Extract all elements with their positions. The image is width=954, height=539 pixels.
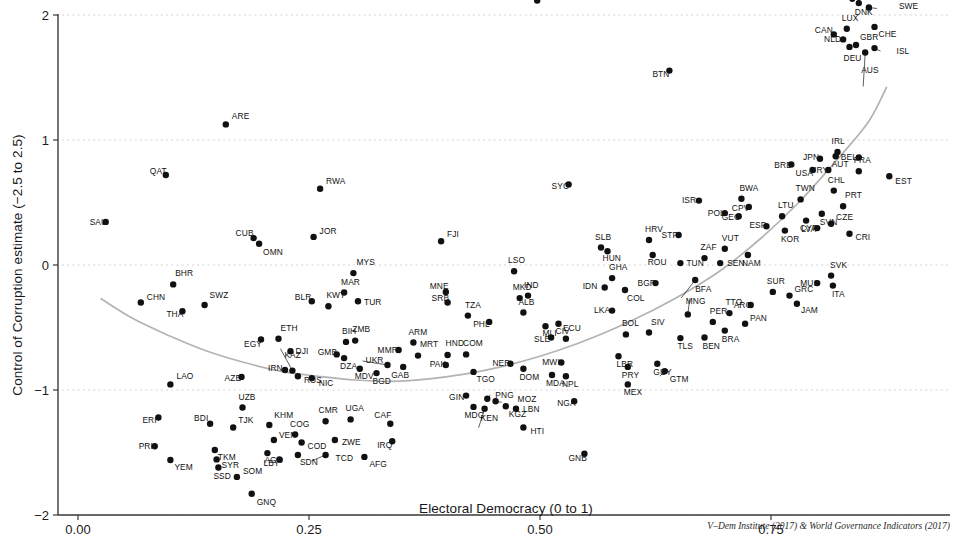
point-labels-group: SAUQATARECHNBHRTHASWZLAOERIPRKYEMBDITKMS… [90,0,919,507]
data-point-VEN[interactable] [271,437,277,443]
data-point-SOM[interactable] [234,474,240,480]
point-label-USA: USA [796,168,814,178]
data-point-IDN[interactable] [602,284,608,290]
data-point-ARM[interactable] [410,339,416,345]
data-point-SLB[interactable] [598,244,604,250]
data-point-VUT[interactable] [722,246,728,252]
data-point-CRI[interactable] [846,231,852,237]
data-point-ISR[interactable] [696,197,702,203]
data-point-CHE[interactable] [871,24,877,30]
data-point-FJI[interactable] [438,238,444,244]
data-point-LSO[interactable] [511,268,517,274]
data-point-KHM[interactable] [266,422,272,428]
data-point-CMR[interactable] [322,418,328,424]
data-point-IRN[interactable] [282,367,288,373]
data-point-MNG[interactable] [685,311,691,317]
data-point-MRT[interactable] [415,352,421,358]
data-point-CHL[interactable] [831,187,837,193]
trend-curve-group [101,88,886,382]
data-point-BHR[interactable] [170,281,176,287]
data-point-TZA[interactable] [465,312,471,318]
data-point-CHN[interactable] [138,299,144,305]
data-point-ZWE[interactable] [332,437,338,443]
data-point-RUS[interactable] [295,373,301,379]
data-point-RWA[interactable] [317,186,323,192]
data-point-AUS[interactable] [862,49,868,55]
point-label-KEN: KEN [481,413,499,423]
data-point-ISL[interactable] [871,45,877,51]
data-point-SUR[interactable] [770,289,776,295]
data-point-SIV[interactable] [646,329,652,335]
point-label-AZE: AZE [225,373,242,383]
point-label-BOL: BOL [622,318,639,328]
data-point-FIN[interactable] [849,0,855,2]
data-point-DNK[interactable] [856,0,862,6]
data-point-TUN[interactable] [677,260,683,266]
point-label-BTN: BTN [652,69,669,79]
data-point-TUR[interactable] [355,298,361,304]
data-point-PNG[interactable] [484,396,490,402]
data-point-OMN[interactable] [256,241,262,247]
data-point-HTI[interactable] [520,424,526,430]
point-label-CUB: CUB [236,228,254,238]
data-point-TJK[interactable] [230,424,236,430]
data-point-ZMB[interactable] [352,337,358,343]
data-point-MYS[interactable] [350,270,356,276]
point-label-PNG: PNG [495,390,513,400]
point-label-BEN: BEN [703,341,721,351]
data-point-FRA[interactable] [856,168,862,174]
data-point-UZB[interactable] [239,404,245,410]
point-label-PRT: PRT [845,190,862,200]
data-point-YEM[interactable] [167,457,173,463]
data-point-LUX[interactable] [844,26,850,32]
point-label-MYS: MYS [356,257,375,267]
data-point-COD[interactable] [298,439,304,445]
point-label-UZB: UZB [239,392,256,402]
data-point-BFA[interactable] [692,277,698,283]
data-point-BOL[interactable] [623,331,629,337]
data-point-TWN[interactable] [797,196,803,202]
data-point-JOR[interactable] [310,234,316,240]
data-point-SWZ[interactable] [201,302,207,308]
point-label-GNB: GNB [568,453,587,463]
data-point-ECU[interactable] [563,336,569,342]
data-point-GRC[interactable] [786,292,792,298]
data-point-TCD[interactable] [322,452,328,458]
point-label-LTU: LTU [778,200,794,210]
data-point-UGA[interactable] [347,416,353,422]
data-point-ALB[interactable] [520,309,526,315]
data-point-CAF[interactable] [387,421,393,427]
data-point-ARE[interactable] [223,121,229,127]
data-point-BIH[interactable] [343,339,349,345]
data-point-SVK[interactable] [828,272,834,278]
data-point-ETH[interactable] [275,336,281,342]
data-point-HND[interactable] [444,352,450,358]
point-label-HRV: HRV [645,224,663,234]
point-label-FJI: FJI [447,229,459,239]
data-point-PER[interactable] [710,319,716,325]
point-label-UGA: UGA [346,403,365,413]
data-point-GBR[interactable] [853,42,859,48]
data-point-UKR[interactable] [384,362,390,368]
data-point-SEN[interactable] [717,260,723,266]
data-point-SGP[interactable] [534,0,540,4]
data-point-GHA[interactable] [609,275,615,281]
data-point-BWA[interactable] [738,196,744,202]
data-point-PRT[interactable] [840,203,846,209]
data-point-KAZ[interactable] [289,367,295,373]
data-point-LAO[interactable] [167,381,173,387]
data-point-HRV[interactable] [646,237,652,243]
point-label-MNE: MNE [430,281,449,291]
data-point-IRL[interactable] [834,149,840,155]
x-tick-label-0.00: 0.00 [65,522,90,537]
data-point-EST[interactable] [886,173,892,179]
data-point-LTU[interactable] [779,213,785,219]
point-label-MMR: MMR [378,345,398,355]
data-point-DEU[interactable] [846,44,852,50]
data-point-KWT[interactable] [325,303,331,309]
data-point-COM[interactable] [463,351,469,357]
data-point-AFG[interactable] [361,454,367,460]
data-point-GNQ[interactable] [249,491,255,497]
data-point-PAN[interactable] [742,321,748,327]
data-point-JAM[interactable] [794,301,800,307]
